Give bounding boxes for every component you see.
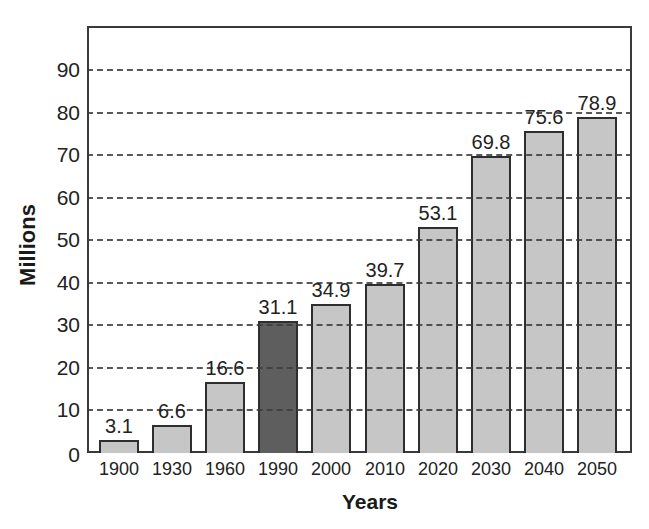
gridline (87, 197, 632, 199)
bar (524, 131, 564, 453)
x-axis-title: Years (342, 490, 398, 514)
gridline (87, 367, 632, 369)
bar (418, 227, 458, 453)
bar-value-label: 69.8 (456, 131, 526, 153)
gridline (87, 239, 632, 241)
gridline (87, 324, 632, 326)
x-tick-label: 2030 (463, 458, 519, 480)
x-tick-label: 2040 (516, 458, 572, 480)
bar-value-label: 16.6 (190, 357, 260, 379)
x-tick-label: 2020 (410, 458, 466, 480)
bar-value-label: 53.1 (403, 202, 473, 224)
bar (311, 304, 351, 453)
x-tick-label: 2000 (303, 458, 359, 480)
x-tick-label: 1990 (250, 458, 306, 480)
x-tick-label: 1930 (144, 458, 200, 480)
bar (471, 156, 511, 453)
x-tick-label: 1900 (91, 458, 147, 480)
bar-value-label: 6.6 (137, 400, 207, 422)
gridline (87, 154, 632, 156)
y-axis-title: Millions (15, 204, 41, 286)
y-tick-label: 20 (20, 357, 80, 379)
bar (152, 425, 192, 453)
y-tick-label: 10 (20, 399, 80, 421)
y-tick-label: 90 (20, 59, 80, 81)
bar (99, 440, 139, 453)
bar (205, 382, 245, 453)
bar (577, 117, 617, 453)
bar-value-label: 39.7 (350, 259, 420, 281)
bar-highlighted (258, 321, 298, 453)
y-tick-label: 70 (20, 144, 80, 166)
x-tick-label: 2050 (569, 458, 625, 480)
x-tick-label: 1960 (197, 458, 253, 480)
y-tick-label: 80 (20, 102, 80, 124)
bar-value-label: 78.9 (562, 92, 632, 114)
gridline (87, 69, 632, 71)
bar-chart: 0102030405060708090 3.16.616.631.134.939… (0, 0, 649, 529)
x-tick-label: 2010 (357, 458, 413, 480)
y-tick-label: 0 (20, 444, 80, 466)
bar-value-label: 34.9 (296, 279, 366, 301)
y-tick-label: 30 (20, 314, 80, 336)
